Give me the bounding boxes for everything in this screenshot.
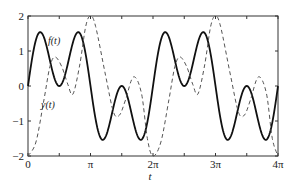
x-tick-label: 4π: [272, 158, 284, 170]
y-tick-label: 0: [19, 80, 25, 92]
curve-f: [28, 32, 278, 140]
x-tick-label: 3π: [210, 158, 222, 170]
chart: 0π2π3π4π210−1−2 f(t) y(t) t: [0, 0, 294, 187]
y-tick-label: 2: [19, 10, 25, 22]
y-tick-label: 1: [19, 45, 25, 57]
curves: [28, 16, 278, 156]
x-tick-label: 0: [25, 158, 31, 170]
y-curve-label: y(t): [40, 99, 56, 111]
y-tick-label: −2: [12, 150, 24, 162]
y-tick-label: −1: [12, 115, 24, 127]
x-tick-label: π: [88, 158, 94, 170]
f-curve-label: f(t): [48, 35, 61, 47]
x-tick-label: 2π: [147, 158, 159, 170]
x-axis-label: t: [148, 170, 152, 182]
